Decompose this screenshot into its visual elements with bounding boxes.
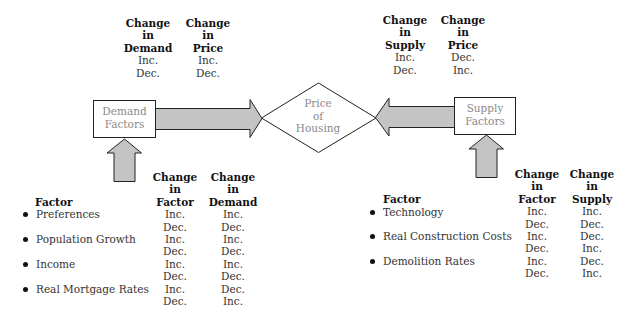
bullet-icon <box>23 287 28 292</box>
demand-factor-title: Factor <box>35 196 72 208</box>
demand-factor-item: Population Growth <box>23 233 136 245</box>
top-left-change-in-price-column: Change in Price Inc. Dec. <box>183 17 233 79</box>
supply-change-in-supply-column: Change in Supply Inc. Dec. Dec. Inc. Dec… <box>566 168 618 280</box>
supply-factor-item: Technology <box>370 206 443 218</box>
bullet-icon <box>23 212 28 217</box>
demand-change-in-factor-column: Change in Factor Inc. Dec. Inc. Dec. Inc… <box>150 171 200 307</box>
supply-factor-title: Factor <box>383 193 420 205</box>
supply-to-price-arrow <box>376 98 455 136</box>
demand-factor-item: Income <box>23 258 75 270</box>
demand-factor-item: Preferences <box>23 208 100 220</box>
top-right-change-in-supply-column: Change in Supply Inc. Dec. <box>380 14 430 76</box>
bullet-icon <box>370 259 375 264</box>
top-right-change-in-price-column: Change in Price Dec. Inc. <box>438 14 488 76</box>
top-left-change-in-demand-column: Change in Demand Inc. Dec. <box>118 17 178 79</box>
supply-factor-item: Demolition Rates <box>370 255 475 267</box>
bullet-icon <box>370 210 375 215</box>
supply-factors-input-arrow <box>469 135 504 178</box>
demand-factors-label: Demand Factors <box>93 105 156 131</box>
supply-factors-label: Supply Factors <box>454 102 516 128</box>
demand-to-price-arrow <box>156 100 263 138</box>
price-of-housing-label: Price of Housing <box>288 97 348 135</box>
demand-change-in-demand-column: Change in Demand Inc. Dec. Inc. Dec. Inc… <box>206 171 260 307</box>
supply-change-in-factor-column: Change in Factor Inc. Dec. Inc. Dec. Inc… <box>512 168 562 280</box>
bullet-icon <box>23 262 28 267</box>
bullet-icon <box>23 237 28 242</box>
demand-factors-input-arrow <box>107 139 142 182</box>
supply-factor-item: Real Construction Costs <box>370 230 512 242</box>
demand-factor-item: Real Mortgage Rates <box>23 283 149 295</box>
bullet-icon <box>370 234 375 239</box>
